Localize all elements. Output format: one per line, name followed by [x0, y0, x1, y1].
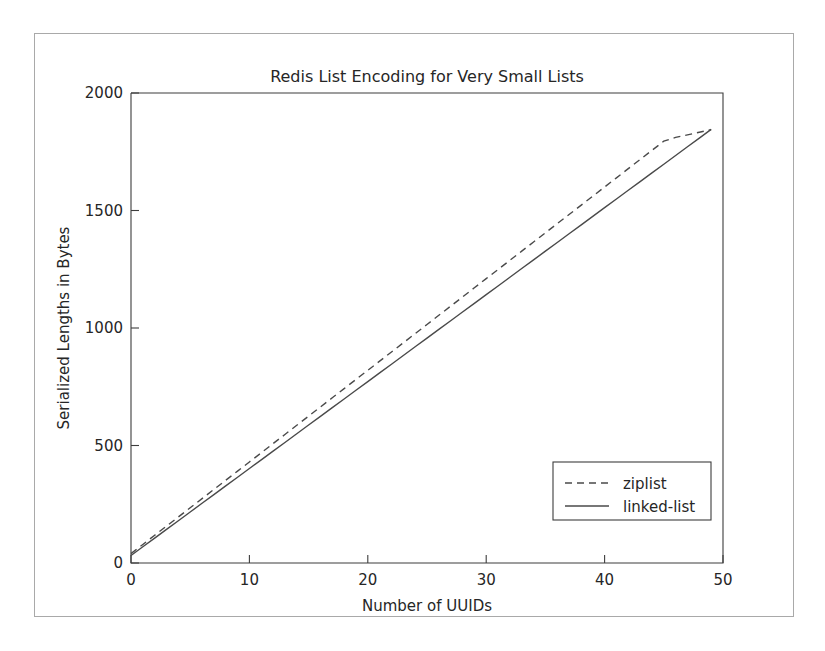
y-axis-title: Serialized Lengths in Bytes — [55, 226, 73, 429]
y-tick-label: 1000 — [85, 319, 123, 337]
y-tick-label: 0 — [113, 554, 123, 572]
y-tick-label: 2000 — [85, 84, 123, 102]
legend: ziplist linked-list — [553, 462, 711, 520]
x-tick-label: 20 — [358, 571, 377, 589]
legend-label-linked-list: linked-list — [623, 498, 695, 516]
y-tick-label: 1500 — [85, 202, 123, 220]
legend-label-ziplist: ziplist — [623, 475, 667, 493]
y-tick-label: 500 — [94, 437, 123, 455]
chart-title: Redis List Encoding for Very Small Lists — [270, 67, 584, 86]
x-tick-label: 40 — [595, 571, 614, 589]
x-tick-label: 0 — [126, 571, 136, 589]
figure-frame: Redis List Encoding for Very Small Lists… — [34, 33, 794, 617]
x-tick-label: 10 — [240, 571, 259, 589]
x-axis-title: Number of UUIDs — [362, 597, 492, 615]
x-tick-label: 50 — [713, 571, 732, 589]
x-tick-label: 30 — [477, 571, 496, 589]
line-chart: Redis List Encoding for Very Small Lists… — [35, 34, 795, 618]
figure-page: Redis List Encoding for Very Small Lists… — [0, 0, 825, 651]
